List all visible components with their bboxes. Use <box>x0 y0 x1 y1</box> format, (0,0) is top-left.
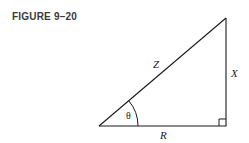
right-angle-marker <box>219 119 226 126</box>
hypotenuse-line <box>99 18 226 126</box>
opposite-label: X <box>230 67 239 79</box>
hypotenuse-label: Z <box>153 58 160 70</box>
right-triangle-diagram: θ Z X R <box>0 0 249 143</box>
angle-label: θ <box>126 110 131 121</box>
adjacent-label: R <box>159 129 167 141</box>
